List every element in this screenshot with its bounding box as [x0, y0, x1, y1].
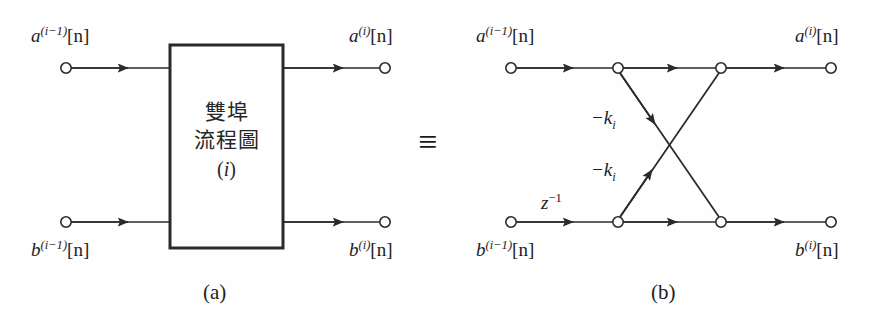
gain-cross-up-sign: − [591, 159, 604, 180]
port-a-out-bottom-base: b [349, 239, 359, 260]
port-b-out-top-base: a [795, 25, 805, 46]
port-a-out-top-bracket: [n] [370, 25, 392, 46]
port-a-in-bottom-bracket: [n] [67, 239, 89, 260]
port-a-out-bottom-sup: (i) [359, 238, 371, 252]
node-b-in-top [506, 63, 516, 73]
port-b-out-top-bracket: [n] [816, 25, 838, 46]
port-label-b-out-bottom: b(i)[n] [795, 240, 838, 259]
port-a-out-bottom-bracket: [n] [370, 239, 392, 260]
gain-cross-down-base: k [604, 107, 612, 128]
branch-gain-delay: z−1 [541, 193, 562, 212]
gain-cross-down-sub: i [612, 118, 615, 132]
port-label-b-out-top: a(i)[n] [795, 26, 838, 45]
port-b-out-bottom-bracket: [n] [816, 239, 838, 260]
block-label-line-2: 流程圖 [170, 127, 283, 154]
port-b-in-top-base: a [476, 25, 486, 46]
node-b-in-bottom [506, 217, 516, 227]
port-b-in-bottom-base: b [476, 239, 486, 260]
port-b-in-bottom-sup: (i−1) [486, 238, 513, 252]
node-a-out-bottom [380, 217, 390, 227]
node-a-in-bottom [61, 217, 71, 227]
block-label-index: (i) [170, 156, 283, 182]
node-b-top-2 [716, 63, 726, 73]
port-a-in-bottom-sup: (i−1) [41, 238, 68, 252]
gain-cross-up-sub: i [612, 170, 615, 184]
figure-root: 雙埠 流程圖 (i) a(i−1)[n] a(i)[n] b(i−1)[n] b… [0, 0, 885, 317]
port-label-a-in-bottom: b(i−1)[n] [31, 240, 89, 259]
port-label-a-in-top: a(i−1)[n] [31, 26, 89, 45]
node-a-in-top [61, 63, 71, 73]
node-a-out-top [380, 63, 390, 73]
port-b-out-bottom-base: b [795, 239, 805, 260]
port-b-out-bottom-sup: (i) [805, 238, 817, 252]
figure-canvas [0, 0, 885, 317]
port-a-out-top-base: a [349, 25, 359, 46]
equivalence-symbol: ≡ [418, 125, 437, 159]
port-a-out-top-sup: (i) [359, 24, 371, 38]
gain-cross-down-sign: − [591, 107, 604, 128]
caption-panel-b: (b) [651, 282, 676, 303]
port-label-b-in-bottom: b(i−1)[n] [476, 240, 534, 259]
node-b-bottom-1 [613, 217, 623, 227]
port-a-in-top-base: a [31, 25, 41, 46]
port-a-in-top-bracket: [n] [67, 25, 89, 46]
port-label-a-out-top: a(i)[n] [349, 26, 392, 45]
gain-delay-sup: −1 [548, 191, 561, 205]
branch-gain-cross-down: −ki [591, 108, 616, 127]
port-b-in-bottom-bracket: [n] [512, 239, 534, 260]
caption-panel-a: (a) [203, 282, 226, 303]
port-label-b-in-top: a(i−1)[n] [476, 26, 534, 45]
block-index-open: ( [217, 158, 224, 180]
node-b-out-bottom [826, 217, 836, 227]
port-a-in-bottom-base: b [31, 239, 41, 260]
gain-cross-up-base: k [604, 159, 612, 180]
port-label-a-out-bottom: b(i)[n] [349, 240, 392, 259]
port-a-in-top-sup: (i−1) [41, 24, 68, 38]
branch-gain-cross-up: −ki [591, 160, 616, 179]
node-b-bottom-2 [716, 217, 726, 227]
block-label-line-1: 雙埠 [170, 99, 283, 126]
port-b-in-top-sup: (i−1) [486, 24, 513, 38]
node-b-out-top [826, 63, 836, 73]
node-b-top-1 [613, 63, 623, 73]
port-b-out-top-sup: (i) [805, 24, 817, 38]
arrowhead-b-cross-up [620, 170, 652, 217]
port-b-in-top-bracket: [n] [512, 25, 534, 46]
block-index-close: ) [229, 158, 236, 180]
arrowhead-b-cross-down [620, 73, 655, 124]
